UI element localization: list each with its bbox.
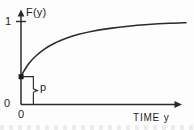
x-axis-arrowhead [175,101,183,108]
plot-canvas [0,0,194,130]
jump-start-point-marker [19,74,24,79]
jump-bracket [23,77,37,105]
y-tick-one-label: 1 [5,16,11,27]
x-origin-label: 0 [18,109,24,120]
y-origin-label: 0 [4,98,10,109]
caption-edge-artifact [0,125,194,130]
cdf-curve [21,23,186,77]
cdf-figure: F(y) 1 0 0 TIME y p [0,0,194,130]
y-axis-title: F(y) [26,7,46,18]
jump-bracket-label: p [40,82,46,93]
y-axis-arrowhead [18,10,25,17]
x-axis-title: TIME y [133,113,169,123]
